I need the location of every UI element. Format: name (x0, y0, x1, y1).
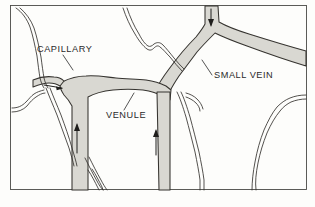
capillary-thin-far-right (252, 95, 306, 190)
vessel-group (12, 6, 306, 190)
label-small-vein: SMALL VEIN (214, 70, 273, 80)
small-vein-leader (202, 60, 212, 75)
capillary-thin-hook (186, 93, 203, 111)
vessel-venule-branch-lower (157, 92, 170, 190)
venule-leader (124, 93, 134, 110)
vessel-diagram: CAPILLARY VENULE SMALL VEIN (0, 0, 315, 207)
capillary-leader (63, 55, 73, 70)
capillary-thin-left-wavy (12, 90, 45, 112)
label-venule: VENULE (106, 110, 146, 120)
capillary-thin-right (177, 92, 204, 190)
label-capillary: CAPILLARY (37, 44, 92, 54)
